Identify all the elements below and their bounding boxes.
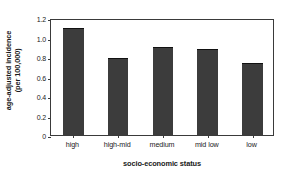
bar-chart-figure: age-adjusted incidence (per 100,000) 00.… <box>0 0 287 182</box>
y-tick-mark <box>48 98 51 99</box>
plot-area <box>50 19 274 136</box>
y-axis-tick-labels: 00.20.40.60.81.01.2 <box>24 0 46 182</box>
y-axis-title-line1: age-adjusted incidence <box>5 30 14 110</box>
x-tick-label: mid low <box>195 140 219 149</box>
y-tick-label: 0.6 <box>24 74 46 81</box>
x-tick-mark <box>73 135 74 138</box>
plot-inner <box>51 20 273 135</box>
x-axis-tick-labels: highhigh-midmediummid lowlow <box>50 140 274 152</box>
x-tick-label: high <box>66 140 79 149</box>
bar <box>197 49 218 135</box>
bar <box>242 63 263 135</box>
y-axis-title-line2: (per 100,000) <box>14 48 23 92</box>
x-tick-label: medium <box>150 140 175 149</box>
y-tick-mark <box>48 40 51 41</box>
bar <box>63 28 84 135</box>
y-tick-mark <box>48 118 51 119</box>
x-tick-mark <box>208 135 209 138</box>
y-tick-label: 0 <box>24 133 46 140</box>
x-tick-mark <box>163 135 164 138</box>
x-tick-mark <box>118 135 119 138</box>
x-tick-label: low <box>246 140 257 149</box>
y-tick-label: 1.2 <box>24 16 46 23</box>
y-tick-label: 0.8 <box>24 55 46 62</box>
y-tick-label: 1.0 <box>24 35 46 42</box>
y-tick-mark <box>48 20 51 21</box>
x-tick-label: high-mid <box>104 140 131 149</box>
bar <box>153 47 174 135</box>
y-tick-mark <box>48 79 51 80</box>
x-tick-mark <box>253 135 254 138</box>
bar <box>108 58 129 135</box>
y-tick-mark <box>48 137 51 138</box>
y-tick-label: 0.4 <box>24 94 46 101</box>
x-axis-title: socio-economic status <box>50 159 274 168</box>
y-tick-mark <box>48 59 51 60</box>
y-tick-label: 0.2 <box>24 113 46 120</box>
